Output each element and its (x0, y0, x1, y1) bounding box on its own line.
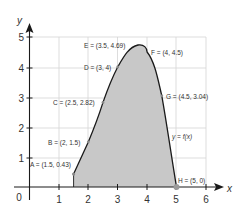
x-tick-label: 6 (203, 194, 209, 205)
point-c-marker (102, 101, 105, 104)
y-tick-label: 1 (18, 153, 24, 164)
point-a-marker (72, 173, 75, 176)
point-b-marker (87, 141, 90, 144)
x-tick-label: 5 (173, 194, 179, 205)
point-b-label: B = (2, 1.5) (48, 139, 80, 147)
point-c-label: C = (2.5, 2.82) (53, 99, 95, 107)
origin-label: 0 (16, 192, 22, 203)
point-a-label: A = (1.5, 0.43) (30, 161, 71, 169)
point-d-marker (116, 66, 119, 69)
x-tick-label: 1 (56, 194, 62, 205)
y-tick-label: 4 (18, 63, 24, 74)
x-tick-label: 4 (144, 194, 150, 205)
point-f-label: F = (4, 4.5) (151, 49, 183, 57)
y-tick-label: 3 (18, 93, 24, 104)
point-e-label: E = (3.5, 4.69) (84, 42, 125, 50)
point-g-label: G = (4.5, 3.04) (166, 93, 208, 101)
x-tick-label: 2 (85, 194, 91, 205)
area-under-curve-chart: 1 2 3 4 5 6 1 2 3 4 5 0 y x A = (1.5, 0.… (0, 0, 242, 216)
y-tick-label: 5 (18, 32, 24, 43)
point-h-label: H = (5, 0) (178, 177, 205, 185)
point-g-marker (160, 94, 163, 97)
y-tick-label: 2 (18, 123, 24, 134)
x-tick-label: 3 (115, 194, 121, 205)
curve-label: y = f(x) (171, 133, 192, 141)
y-axis-label: y (16, 15, 23, 26)
point-h-marker (174, 184, 180, 190)
x-axis-label: x (226, 183, 233, 194)
point-d-label: D = (3, 4) (84, 64, 111, 72)
